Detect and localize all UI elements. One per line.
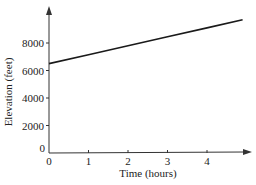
x-axis (49, 152, 244, 153)
x-tick-label: 3 (165, 155, 171, 167)
x-axis-label: Time (hours) (119, 167, 177, 180)
elevation-line (49, 20, 243, 64)
y-axis-label: Elevation (feet) (2, 57, 15, 126)
x-axis-arrow-icon (243, 149, 252, 155)
y-tick-label: 0 (40, 142, 46, 154)
x-tick-label: 4 (204, 155, 210, 167)
y-tick-label: 8000 (22, 37, 45, 49)
y-tick-label: 6000 (22, 65, 45, 77)
y-tick-label: 2000 (22, 120, 45, 132)
x-tick-label: 0 (46, 155, 52, 167)
x-tick-label: 1 (86, 155, 92, 167)
y-tick-label: 4000 (22, 92, 45, 104)
y-axis-arrow-icon (46, 6, 52, 15)
chart-svg: 02000400060008000 01234 Time (hours) Ele… (0, 0, 256, 185)
x-tick-label: 2 (125, 155, 131, 167)
y-ticks: 02000400060008000 (22, 37, 49, 154)
